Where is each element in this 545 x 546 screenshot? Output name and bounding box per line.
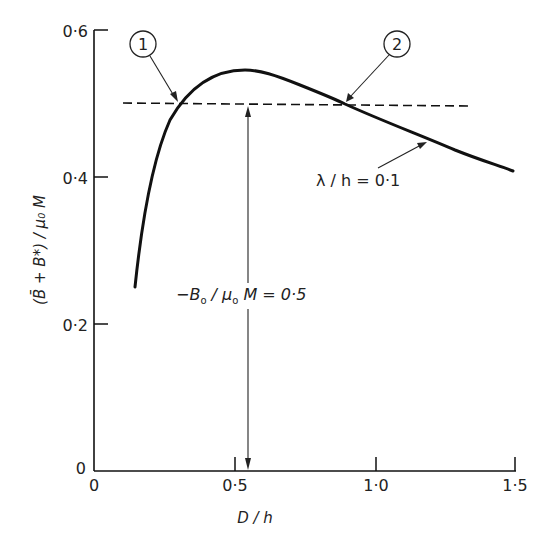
callout-2-arrow-line (350, 55, 389, 97)
b0-label: −Bo / μo M = 0·5 (176, 285, 306, 306)
callout-2-label: 2 (392, 35, 402, 54)
y-tick-label-0.4: 0·4 (63, 169, 88, 188)
lambda-annotation: λ / h = 0·1 (316, 142, 427, 190)
y-tick-label-0: 0 (76, 459, 86, 478)
b0-label-mid: / μ (207, 285, 233, 304)
x-tick-label-1.0: 1·0 (363, 476, 388, 495)
chart-canvas: 0·6 0·4 0·2 0 0 0·5 1·0 1·5 D / h (B̄ + … (0, 0, 545, 546)
b0-arrowhead-up-icon (245, 106, 251, 117)
lambda-label: λ / h = 0·1 (316, 171, 400, 190)
callout-1-label: 1 (138, 35, 148, 54)
b0-label-suffix: M = 0·5 (238, 285, 306, 304)
x-tick-label-1.5: 1·5 (502, 476, 527, 495)
b0-arrowhead-down-icon (245, 458, 251, 470)
callout-1-arrow-line (150, 56, 174, 96)
callout-2: 2 (346, 31, 410, 102)
y-tick-label-0.2: 0·2 (63, 316, 88, 335)
b0-label-prefix: −B (176, 285, 200, 304)
x-axis-title: D / h (237, 509, 273, 527)
callout-1-arrowhead-icon (170, 91, 178, 102)
reference-dashed-line (123, 103, 468, 106)
lambda-arrow-line (378, 145, 421, 168)
callout-1: 1 (130, 31, 178, 102)
axes (94, 30, 516, 471)
b0-annotation: −Bo / μo M = 0·5 (170, 106, 330, 470)
lambda-arrowhead-icon (417, 142, 427, 149)
x-tick-label-0.5: 0·5 (222, 476, 247, 495)
x-tick-label-0: 0 (89, 476, 99, 495)
y-tick-label-0.6: 0·6 (63, 22, 88, 41)
y-axis-title: (B̄ + B*) / μ₀ M (30, 195, 49, 305)
